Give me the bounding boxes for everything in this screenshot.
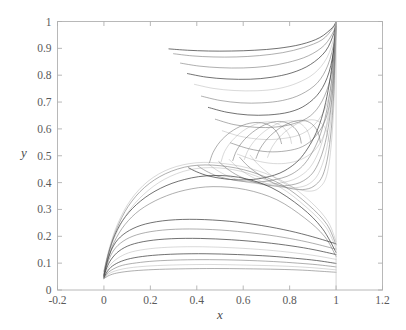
y-tick-label-5: 0.5 bbox=[37, 150, 52, 162]
x-tick-label-3: 0.4 bbox=[190, 294, 205, 306]
y-tick-label-2: 0.2 bbox=[37, 230, 52, 242]
y-tick-label-10: 1 bbox=[46, 16, 52, 28]
x-tick-label-4: 0.6 bbox=[236, 294, 251, 306]
y-tick-label-7: 0.7 bbox=[37, 96, 52, 108]
y-tick-label-9: 0.9 bbox=[37, 42, 52, 54]
y-tick-label-1: 0.1 bbox=[37, 257, 52, 269]
x-tick-label-6: 1 bbox=[333, 294, 339, 306]
figure-container: -0.200.20.40.60.811.2 00.10.20.30.40.50.… bbox=[0, 0, 406, 330]
y-tick-label-3: 0.3 bbox=[37, 203, 52, 215]
x-tick-label-2: 0.2 bbox=[143, 294, 158, 306]
x-tick-label-1: 0 bbox=[101, 294, 107, 306]
y-axis-title: y bbox=[19, 145, 27, 160]
y-tick-label-0: 0 bbox=[46, 284, 52, 296]
y-tick-label-4: 0.4 bbox=[37, 177, 52, 189]
x-tick-label-7: 1.2 bbox=[375, 294, 390, 306]
y-tick-label-6: 0.6 bbox=[37, 123, 52, 135]
phase-portrait-chart: -0.200.20.40.60.811.2 00.10.20.30.40.50.… bbox=[0, 0, 406, 330]
x-axis-title: x bbox=[216, 307, 223, 322]
y-tick-label-8: 0.8 bbox=[37, 69, 52, 81]
x-tick-label-5: 0.8 bbox=[282, 294, 297, 306]
